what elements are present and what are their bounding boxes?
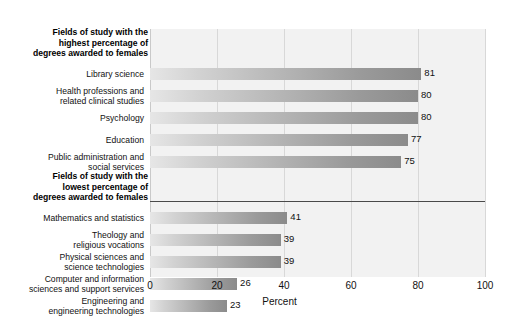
bar-value-label: 77 — [411, 132, 422, 146]
group-header-2: Fields of study with thelowest percentag… — [0, 171, 148, 203]
bar — [150, 134, 408, 146]
category-label: Computer and informationsciences and sup… — [4, 274, 144, 295]
category-label: Theology andreligious vocations — [4, 230, 144, 251]
bar — [150, 234, 281, 246]
group-header-line: Fields of study with the — [0, 27, 148, 38]
category-label-line: Health professions and — [4, 86, 144, 97]
bar-value-label: 41 — [290, 210, 301, 224]
category-label-line: Computer and information — [4, 274, 144, 285]
plot-area: 81808077754139392623 — [150, 29, 485, 277]
bar-row: 75 — [150, 151, 485, 173]
bar — [150, 278, 237, 290]
x-tick-label: 0 — [147, 279, 153, 292]
group-header-line: Fields of study with the — [0, 171, 148, 182]
bar-value-label: 80 — [421, 88, 432, 102]
x-tick-label: 100 — [477, 279, 494, 292]
category-label-line: sciences and support services — [4, 284, 144, 295]
bar-value-label: 75 — [404, 154, 415, 168]
category-label-line: Theology and — [4, 230, 144, 241]
bar — [150, 112, 418, 124]
bar-value-label: 39 — [284, 254, 295, 268]
category-label-line: Psychology — [4, 113, 144, 124]
group-header-line: degrees awarded to females — [0, 192, 148, 203]
category-label-line: Physical sciences and — [4, 252, 144, 263]
group-header-line: lowest percentage of — [0, 182, 148, 193]
bar — [150, 256, 281, 268]
category-label-line: engineering technologies — [4, 306, 144, 317]
category-label-line: Education — [4, 135, 144, 146]
bar-value-label: 39 — [284, 232, 295, 246]
group-header-line: highest percentage of — [0, 38, 148, 49]
bar-value-label: 80 — [421, 110, 432, 124]
group-header-1: Fields of study with thehighest percenta… — [0, 27, 148, 59]
category-label: Education — [4, 135, 144, 146]
bar — [150, 90, 418, 102]
x-tick-label: 20 — [211, 279, 222, 292]
x-tick-label: 60 — [345, 279, 356, 292]
x-axis-title: Percent — [0, 296, 521, 307]
bar — [150, 212, 287, 224]
bar-row: 39 — [150, 251, 485, 273]
category-label-line: science technologies — [4, 262, 144, 273]
group-divider — [150, 201, 485, 202]
bar-row: 81 — [150, 63, 485, 85]
gridline-100 — [485, 29, 486, 277]
bar-row: 39 — [150, 229, 485, 251]
bar-value-label: 26 — [240, 276, 251, 290]
category-label: Public administration andsocial services — [4, 152, 144, 173]
bar — [150, 68, 421, 80]
x-tick-label: 80 — [412, 279, 423, 292]
category-label-line: Library science — [4, 69, 144, 80]
category-label: Library science — [4, 69, 144, 80]
bar-row: 77 — [150, 129, 485, 151]
category-label: Health professions andrelated clinical s… — [4, 86, 144, 107]
x-tick-label: 40 — [278, 279, 289, 292]
category-label: Mathematics and statistics — [4, 213, 144, 224]
bar — [150, 156, 401, 168]
bar-row: 41 — [150, 207, 485, 229]
category-label: Physical sciences andscience technologie… — [4, 252, 144, 273]
category-label-line: Mathematics and statistics — [4, 213, 144, 224]
bar-row: 80 — [150, 85, 485, 107]
category-label-line: religious vocations — [4, 240, 144, 251]
category-label-line: related clinical studies — [4, 96, 144, 107]
group-header-line: degrees awarded to females — [0, 48, 148, 59]
category-label-line: Public administration and — [4, 152, 144, 163]
category-label: Psychology — [4, 113, 144, 124]
bar-value-label: 81 — [424, 66, 435, 80]
bar-chart: 81808077754139392623 Fields of study wit… — [0, 0, 521, 318]
bar-row: 80 — [150, 107, 485, 129]
bar-row: 26 — [150, 273, 485, 295]
x-axis-title-label: Percent — [262, 296, 296, 307]
